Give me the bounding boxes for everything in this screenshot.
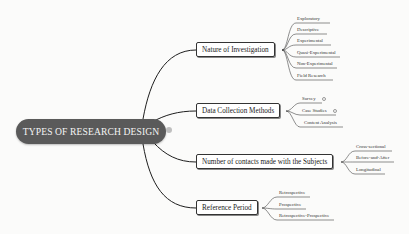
leaf-before-and-after[interactable]: Before-and-After bbox=[356, 155, 389, 161]
branch-reference-period[interactable]: Reference Period bbox=[196, 200, 258, 215]
branch-nature-of-investigation[interactable]: Nature of Investigation bbox=[196, 42, 275, 57]
branch-label: Number of contacts made with the Subject… bbox=[202, 158, 327, 166]
branch-data-collection-methods[interactable]: Data Collection Methods bbox=[196, 103, 280, 118]
leaf-content-analysis[interactable]: Content Analysis bbox=[304, 120, 337, 126]
leaf-cross-sectional[interactable]: Cross-sectional bbox=[356, 144, 386, 150]
leaf-retrospective-prospective[interactable]: Retrospective-Prospective bbox=[279, 213, 329, 219]
leaf-quasi-experimental[interactable]: Quasi-Experimental bbox=[297, 50, 336, 56]
branch-label: Reference Period bbox=[202, 204, 252, 212]
leaf-exploratory[interactable]: Exploratory bbox=[297, 16, 320, 22]
leaf-label: Survey bbox=[302, 96, 316, 101]
leaf-non-experimental[interactable]: Non-Experimental bbox=[297, 61, 333, 67]
branch-number-of-contacts[interactable]: Number of contacts made with the Subject… bbox=[196, 154, 333, 169]
attachment-icon[interactable] bbox=[333, 109, 337, 113]
leaf-retrospective[interactable]: Retrospective bbox=[279, 190, 305, 196]
leaf-descriptive[interactable]: Descriptive bbox=[297, 27, 319, 33]
leaf-prospective[interactable]: Prospective bbox=[279, 202, 301, 208]
leaf-field-research[interactable]: Field Research bbox=[297, 73, 326, 79]
leaf-experimental[interactable]: Experimental bbox=[297, 38, 323, 44]
leaf-case-studies[interactable]: Case Studies bbox=[302, 108, 337, 114]
leaf-label: Case Studies bbox=[302, 108, 327, 113]
leaf-survey[interactable]: Survey bbox=[302, 96, 326, 102]
branch-label: Data Collection Methods bbox=[202, 107, 274, 115]
leaf-longitudinal[interactable]: Longitudinal bbox=[356, 167, 381, 173]
branch-label: Nature of Investigation bbox=[202, 46, 269, 54]
central-topic[interactable]: TYPES OF RESEARCH DESIGN bbox=[16, 119, 166, 144]
collapse-handle-icon[interactable] bbox=[166, 127, 172, 133]
attachment-icon[interactable] bbox=[322, 97, 326, 101]
